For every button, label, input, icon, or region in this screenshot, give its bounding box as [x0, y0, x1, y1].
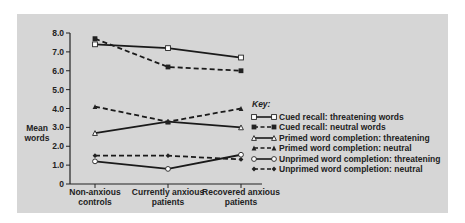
x-tick-label: patients [152, 197, 185, 207]
filled-diamond-marker [239, 157, 244, 162]
open-square-marker [239, 55, 244, 60]
legend-label: Unprimed word completion: threatening [279, 154, 441, 164]
series-5 [93, 153, 244, 162]
open-triangle-marker [93, 131, 98, 136]
y-tick-label: 8.0 [52, 28, 64, 38]
x-tick-label: Recovered anxious [202, 187, 280, 197]
open-circle-marker [166, 167, 171, 172]
series-0 [93, 42, 244, 60]
open-circle-marker [239, 152, 244, 157]
y-tick-label: 1.0 [52, 160, 64, 170]
line-chart: 01.02.03.04.05.06.07.08.0MeanwordsNon-an… [0, 0, 465, 223]
open-triangle-marker [239, 125, 244, 130]
filled-square-marker [239, 68, 244, 73]
open-triangle-marker [252, 136, 257, 141]
y-axis-title: Mean [26, 123, 48, 133]
x-tick-label: Currently anxious [132, 187, 205, 197]
filled-square-marker [252, 125, 257, 130]
filled-diamond-marker [272, 167, 277, 172]
x-tick-label: Non-anxious [69, 187, 121, 197]
y-tick-label: 4.0 [52, 104, 64, 114]
legend-title: Key: [252, 99, 271, 109]
filled-diamond-marker [93, 153, 98, 158]
legend-label: Primed word completion: threatening [279, 133, 430, 143]
y-tick-label: 7.0 [52, 47, 64, 57]
open-circle-marker [272, 157, 277, 162]
series-lines [93, 36, 244, 171]
open-square-marker [93, 42, 98, 47]
open-square-marker [272, 115, 277, 120]
y-tick-label: 5.0 [52, 85, 64, 95]
legend: Key:Cued recall: threatening wordsCued r… [252, 99, 441, 174]
legend-label: Cued recall: neutral words [279, 122, 386, 132]
open-triangle-marker [272, 136, 277, 141]
filled-diamond-marker [166, 153, 171, 158]
open-circle-marker [252, 157, 257, 162]
y-tick-label: 2.0 [52, 141, 64, 151]
open-square-marker [166, 46, 171, 51]
x-tick-label: controls [78, 197, 112, 207]
legend-label: Primed word completion: neutral [279, 143, 412, 153]
filled-diamond-marker [252, 167, 257, 172]
y-tick-label: 0 [59, 179, 64, 189]
series-3 [93, 104, 244, 124]
open-circle-marker [93, 159, 98, 164]
filled-square-marker [272, 125, 277, 130]
y-tick-label: 6.0 [52, 66, 64, 76]
open-square-marker [252, 115, 257, 120]
filled-square-marker [93, 36, 98, 41]
y-tick-label: 3.0 [52, 122, 64, 132]
legend-label: Cued recall: threatening words [279, 112, 404, 122]
filled-triangle-marker [272, 146, 277, 151]
legend-label: Unprimed word completion: neutral [279, 164, 423, 174]
x-tick-label: patients [225, 197, 258, 207]
y-axis-title: words [23, 133, 49, 143]
filled-square-marker [166, 65, 171, 70]
